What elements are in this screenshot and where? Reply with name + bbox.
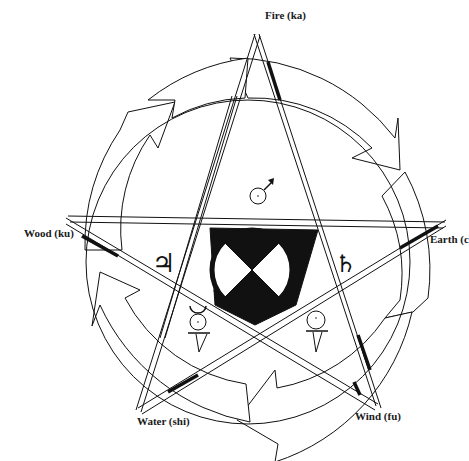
venus-icon <box>306 311 328 352</box>
arrow-wood-to-fire <box>85 102 175 250</box>
mercury-icon <box>188 306 210 352</box>
label-wind: Wind (fu) <box>355 411 401 422</box>
mars-icon <box>250 178 274 204</box>
arrow-wind-to-water <box>237 312 412 461</box>
label-earth: Earth (c <box>430 234 469 245</box>
five-element-diagram: ♃ ♄ Fire (ka) Earth (c Wind (fu) Water (… <box>0 0 469 461</box>
center-emblem <box>212 230 292 310</box>
saturn-icon: ♄ <box>335 250 357 278</box>
label-fire: Fire (ka) <box>265 10 306 21</box>
label-water: Water (shi) <box>137 416 190 427</box>
jupiter-icon: ♃ <box>152 248 175 278</box>
label-wood: Wood (ku) <box>24 228 74 239</box>
